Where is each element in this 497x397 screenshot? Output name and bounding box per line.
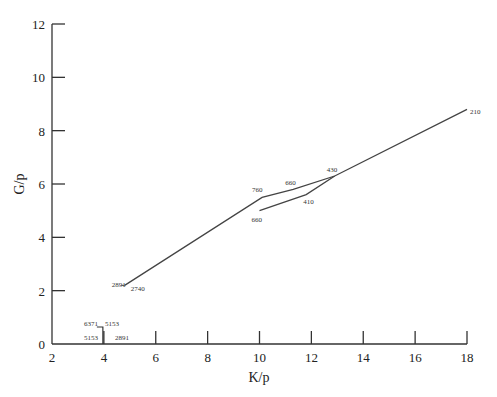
point-label: 430 (327, 166, 338, 174)
marker-label: 6371 (84, 320, 99, 328)
y-tick-label: 10 (32, 70, 45, 85)
series-line (125, 109, 467, 285)
x-axis-title: K/p (249, 370, 270, 385)
point-label: 2891 (112, 281, 127, 289)
marker-label: 5153 (105, 320, 120, 328)
y-tick-label: 6 (39, 177, 46, 192)
point-label: 2740 (131, 285, 146, 293)
point-label: 760 (252, 186, 263, 194)
y-tick-label: 12 (32, 17, 45, 32)
y-tick-label: 8 (39, 124, 46, 139)
x-tick-label: 14 (357, 350, 371, 365)
point-label: 660 (252, 216, 263, 224)
x-tick-label: 10 (253, 350, 266, 365)
y-tick-label: 2 (39, 284, 46, 299)
x-tick-label: 16 (409, 350, 423, 365)
x-tick-label: 6 (153, 350, 160, 365)
x-axis: 24681012141618 (49, 331, 474, 365)
x-tick-label: 12 (305, 350, 318, 365)
point-label: 210 (470, 108, 481, 116)
marker-label: 2891 (115, 334, 130, 342)
y-axis: 024681012 (32, 17, 65, 352)
point-labels: 27407606604302106604102891 (112, 108, 481, 293)
x-tick-label: 8 (204, 350, 211, 365)
x-tick-label: 4 (101, 350, 108, 365)
y-tick-label: 0 (39, 337, 46, 352)
y-tick-label: 4 (39, 230, 46, 245)
marker-label: 5153 (84, 334, 99, 342)
chart: 024681012 24681012141618 274076066043021… (0, 0, 497, 397)
x-tick-label: 18 (461, 350, 474, 365)
y-axis-title: G/p (12, 174, 27, 195)
point-label: 410 (303, 198, 314, 206)
x-tick-label: 2 (49, 350, 56, 365)
point-label: 660 (285, 179, 296, 187)
series-line (260, 176, 335, 211)
plot-lines (122, 109, 467, 285)
bottom-marker: 6371515351532891 (84, 320, 130, 344)
